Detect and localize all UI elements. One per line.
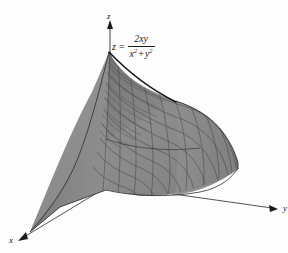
equation-numerator: 2xy: [132, 34, 150, 45]
figure-container: z = 2xy x2+y2 z x y: [0, 0, 288, 253]
x-axis-label: x: [9, 236, 13, 245]
denominator-plus: +: [137, 48, 145, 59]
z-axis-label: z: [107, 12, 111, 21]
y-axis-label: y: [283, 204, 287, 213]
z-axis-arrowhead: [107, 20, 113, 29]
equation-lhs: z: [112, 42, 116, 52]
y-axis-arrowhead: [269, 205, 278, 212]
x-axis-arrowhead: [18, 232, 28, 241]
equation-fraction: 2xy x2+y2: [128, 34, 155, 59]
denominator-exp-y: 2: [149, 47, 152, 54]
surface-mesh: [30, 52, 240, 232]
equation-relation: =: [118, 42, 126, 52]
equation-denominator: x2+y2: [128, 48, 155, 60]
equation-label: z = 2xy x2+y2: [112, 34, 155, 59]
surface-right-lobe: [176, 101, 238, 195]
